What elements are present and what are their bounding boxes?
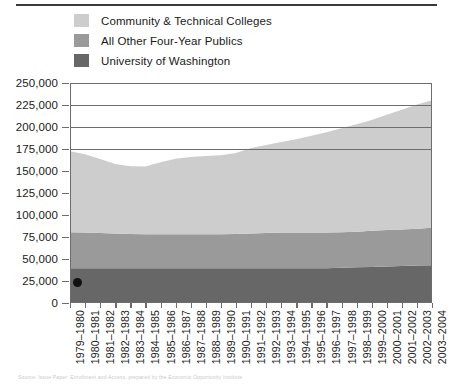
gridline (70, 149, 432, 150)
chart-legend: Community & Technical CollegesAll Other … (74, 11, 394, 71)
y-axis-tick (62, 193, 69, 194)
x-axis-tick (251, 303, 252, 308)
x-axis-label: 1986–1987 (180, 310, 192, 364)
y-axis-tick (62, 149, 69, 150)
x-axis-tick (115, 303, 116, 308)
legend-item-university-of-washington: University of Washington (74, 51, 394, 70)
y-axis: 025,00050,00075,000100,000125,000150,000… (0, 0, 70, 387)
x-axis-label: 1984–1985 (149, 310, 161, 364)
x-axis-tick (130, 303, 131, 308)
x-axis-tick (342, 303, 343, 308)
x-axis-tick (145, 303, 146, 308)
y-axis-label: 150,000 (16, 165, 58, 177)
legend-item-all-other-four-year-publics: All Other Four-Year Publics (74, 31, 394, 50)
x-axis-tick (281, 303, 282, 308)
y-axis-label: 75,000 (22, 231, 58, 243)
x-axis-tick (100, 303, 101, 308)
x-axis-label: 2002–2003 (421, 310, 433, 364)
y-axis-label: 25,000 (22, 275, 58, 287)
x-axis-label: 1992–1993 (270, 310, 282, 364)
legend-item-community-technical-colleges: Community & Technical Colleges (74, 11, 394, 30)
legend-label-all-other-four-year-publics: All Other Four-Year Publics (101, 35, 243, 47)
y-axis-label: 200,000 (16, 121, 58, 133)
x-axis-label: 1980–1981 (89, 310, 101, 364)
x-axis-label: 1996–1997 (330, 310, 342, 364)
y-axis-label: 50,000 (22, 253, 58, 265)
x-axis-label: 1998–1999 (361, 310, 373, 364)
y-axis-tick (62, 281, 69, 282)
gridline (70, 83, 432, 84)
plot-border (70, 83, 432, 303)
x-axis-label: 1997–1998 (346, 310, 358, 364)
x-axis-tick (372, 303, 373, 308)
x-axis-tick (176, 303, 177, 308)
x-axis-tick (236, 303, 237, 308)
x-axis-label: 2000–2001 (391, 310, 403, 364)
x-axis-tick (191, 303, 192, 308)
x-axis-tick (70, 303, 71, 308)
x-axis-label: 1979–1980 (74, 310, 86, 364)
start-point-marker (73, 278, 82, 287)
x-axis-label: 1994–1995 (300, 310, 312, 364)
legend-swatch-university-of-washington (74, 54, 89, 67)
y-axis-label: 100,000 (16, 209, 58, 221)
y-axis-tick (62, 259, 69, 260)
x-axis-label: 1991–1992 (255, 310, 267, 364)
x-axis-label: 1990–1991 (240, 310, 252, 364)
x-axis-label: 1983–1984 (134, 310, 146, 364)
gridline (70, 105, 432, 106)
y-axis-label: 0 (52, 297, 59, 309)
x-axis-label: 1993–1994 (285, 310, 297, 364)
x-axis-label: 2003–2004 (436, 310, 448, 364)
x-axis-tick (206, 303, 207, 308)
chart-page: Community & Technical CollegesAll Other … (0, 0, 453, 387)
y-axis-label: 225,000 (16, 99, 58, 111)
legend-label-community-technical-colleges: Community & Technical Colleges (101, 15, 272, 27)
y-axis-tick (62, 105, 69, 106)
x-axis-tick (326, 303, 327, 308)
x-axis-label: 1987–1988 (195, 310, 207, 364)
x-axis-tick (387, 303, 388, 308)
legend-swatch-community-technical-colleges (74, 14, 89, 27)
x-axis-tick (357, 303, 358, 308)
x-axis-label: 2001–2002 (406, 310, 418, 364)
y-axis-label: 250,000 (16, 77, 58, 89)
x-axis-tick (311, 303, 312, 308)
x-axis-tick (296, 303, 297, 308)
x-axis-label: 1989–1990 (225, 310, 237, 364)
x-axis-label: 1988–1989 (210, 310, 222, 364)
header-rule (16, 4, 437, 6)
y-axis-tick (62, 237, 69, 238)
legend-swatch-all-other-four-year-publics (74, 34, 89, 47)
x-axis-tick (432, 303, 433, 308)
y-axis-tick (62, 83, 69, 84)
x-axis-tick (161, 303, 162, 308)
x-axis-tick (402, 303, 403, 308)
x-axis-label: 1995–1996 (315, 310, 327, 364)
source-note: Source: Issue Paper: Enrollment and Acce… (18, 374, 242, 380)
x-axis-label: 1999–2000 (376, 310, 388, 364)
x-axis-label: 1985–1986 (165, 310, 177, 364)
y-axis-label: 175,000 (16, 143, 58, 155)
gridline (70, 127, 432, 128)
x-axis-tick (266, 303, 267, 308)
x-axis-tick (417, 303, 418, 308)
plot-area (70, 83, 432, 303)
y-axis-tick (62, 215, 69, 216)
legend-label-university-of-washington: University of Washington (101, 55, 230, 67)
x-axis-label: 1981–1982 (104, 310, 116, 364)
x-axis-tick (221, 303, 222, 308)
x-axis-tick (85, 303, 86, 308)
y-axis-tick (62, 171, 69, 172)
y-axis-tick (62, 127, 69, 128)
x-axis-label: 1982–1983 (119, 310, 131, 364)
y-axis-label: 125,000 (16, 187, 58, 199)
y-axis-tick (62, 303, 69, 304)
